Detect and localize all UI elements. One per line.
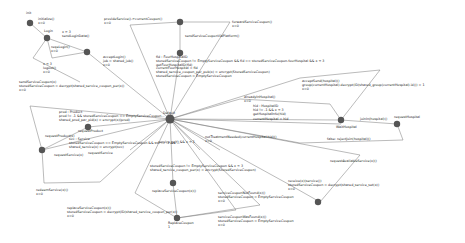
state-node-init[interactable] — [27, 20, 33, 26]
edge-label-hid: hid : HospitalID hid != -1 && x < 3 getH… — [253, 105, 286, 116]
edge-label-join-in: joinIn(hospital)() — [360, 118, 387, 122]
edge-label-replace-service-2: replaceServiceCoupon(x)() storedServiceC… — [67, 207, 177, 218]
node-label-request-product: requestProduct — [78, 130, 103, 134]
edge-label-fid: fid : FourHospitalID storedServiceCoupon… — [156, 56, 324, 79]
edge-label-accept-login: acceptLogin() job = shared_job() x=0 — [103, 56, 133, 67]
edge-label-replace-service: replaceServiceCoupon(x)() — [152, 190, 196, 194]
edge-label-accept-send: acceptSend(hospital)() group(currentHosp… — [302, 80, 425, 91]
edge-label-available-service: requestAvailableService(x)() — [330, 160, 377, 164]
state-node-request-service[interactable] — [39, 147, 45, 153]
edge-label-already-in-hospital: alreadyInHospital() x=0 — [244, 96, 275, 104]
edge-label-forward-coupon: forwardServiceCoupon() x=0 — [232, 21, 272, 29]
edge-label-current-hospital: currentHospital = hid — [253, 118, 288, 122]
node-label-init: init — [26, 12, 31, 16]
state-node-replace-1[interactable] — [170, 180, 176, 186]
edge-label-send-coupon-platform: sendServiceCouponViaPlatform() — [185, 35, 239, 39]
node-label-central: Default — [163, 112, 175, 116]
edge-label-init: initialize() x=0 — [38, 18, 54, 26]
edge-label-logout: x < 3 logout() x=0 — [43, 63, 56, 74]
node-label-wait-hospital: WaitHospital — [336, 126, 357, 130]
edge-label-reqlogin: reqeLogin() x=0 — [51, 46, 70, 54]
node-label-replace-coupon: ReplaceCoupon 1 — [168, 222, 194, 230]
edge-label-request-hospital: requestHospital — [394, 116, 420, 120]
edge-label-provide-service: provideService()->currentCoupon() x=0 — [104, 18, 162, 26]
state-node-request-hospital[interactable] — [394, 121, 400, 127]
state-node-wait-hospital[interactable] — [338, 117, 344, 123]
edge-label-redeem: redeemService(x)() x=0 — [36, 189, 68, 197]
state-node-right[interactable] — [315, 199, 321, 205]
node-label-request-service: requestService — [88, 152, 113, 156]
edge-label-service-self: ...service_self) && x < 1 — [155, 141, 195, 145]
edge-label-stored-coupon: storedServiceCoupon != EmptyServiceCoupo… — [150, 165, 256, 173]
state-node-login[interactable] — [44, 35, 50, 41]
edge-label-receive: receive(x)(service()) storedServiceCoupo… — [288, 180, 379, 191]
edge-label-not-treatment: notTreatmentNeeded(currentHospital.hid)(… — [205, 136, 277, 144]
edge-label-coupon-found: serviceCouponWasFound(x)() storedService… — [218, 216, 294, 227]
edge-label-request-service: requestService(x) — [54, 154, 83, 158]
edge-label-send-service-coupon: sendServiceCoupon(x) storedServiceCoupon… — [19, 81, 124, 92]
state-node-top[interactable] — [177, 19, 183, 25]
edge-label-prod: prod : Product prod != -1 && storedServi… — [59, 111, 165, 122]
state-node-s2[interactable] — [84, 49, 90, 55]
edge-label-login-s2: x > 3 sendLoginData() — [62, 31, 89, 39]
edge-label-reject-join: false: rejectJoin(hospital)() — [327, 138, 371, 142]
node-label-login: Login — [44, 30, 53, 34]
edge-label-coupon-not-found: serviceCouponNotFound(x)() storedService… — [218, 192, 294, 203]
state-node-central[interactable] — [166, 115, 175, 124]
